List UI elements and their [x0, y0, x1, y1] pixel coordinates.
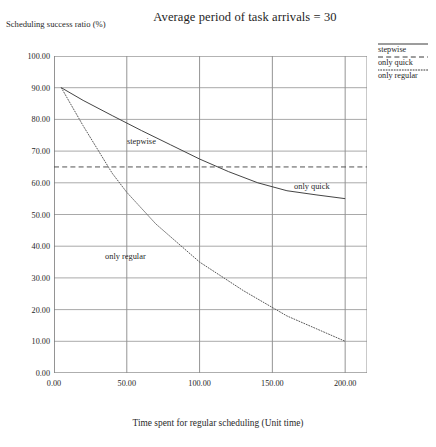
series-annotation: only quick — [294, 182, 330, 191]
legend-item: stepwise — [378, 42, 432, 55]
y-axis-label: Scheduling success ratio (%) — [6, 19, 106, 29]
x-axis-tick-label: 150.00 — [249, 379, 295, 388]
y-axis-tick-label: 0.00 — [8, 369, 50, 378]
y-axis-tick-label: 80.00 — [8, 115, 50, 124]
x-axis-tick-label: 100.00 — [177, 379, 223, 388]
x-axis-tick-label: 200.00 — [322, 379, 368, 388]
y-axis-tick-label: 10.00 — [8, 337, 50, 346]
x-axis-tick-labels: 0.0050.00100.00150.00200.00 — [54, 379, 367, 393]
plot-canvas — [54, 56, 367, 373]
legend-item: only regular — [378, 68, 432, 81]
y-axis-tick-label: 100.00 — [8, 52, 50, 61]
series-annotation: only regular — [105, 252, 146, 261]
legend-label: stepwise — [378, 45, 406, 54]
y-axis-tick-label: 50.00 — [8, 210, 50, 219]
y-axis-tick-label: 40.00 — [8, 242, 50, 251]
y-axis-tick-label: 90.00 — [8, 83, 50, 92]
chart-figure: Average period of task arrivals = 30 Sch… — [0, 0, 436, 447]
x-axis-tick-label: 0.00 — [31, 379, 77, 388]
grid-lines — [54, 56, 367, 373]
y-axis-tick-label: 70.00 — [8, 147, 50, 156]
plot-area — [54, 56, 367, 373]
legend-label: only quick — [378, 58, 413, 67]
chart-legend: stepwiseonly quickonly regular — [378, 42, 432, 81]
y-axis-tick-label: 20.00 — [8, 305, 50, 314]
x-axis-tick-label: 50.00 — [104, 379, 150, 388]
y-axis-tick-label: 60.00 — [8, 178, 50, 187]
chart-title: Average period of task arrivals = 30 — [120, 10, 370, 25]
legend-label: only regular — [378, 71, 418, 80]
x-axis-label: Time spent for regular scheduling (Unit … — [0, 418, 436, 428]
series-annotation: stepwise — [127, 137, 156, 146]
y-axis-tick-labels: 0.0010.0020.0030.0040.0050.0060.0070.008… — [4, 56, 50, 373]
y-axis-tick-label: 30.00 — [8, 273, 50, 282]
legend-item: only quick — [378, 55, 432, 68]
